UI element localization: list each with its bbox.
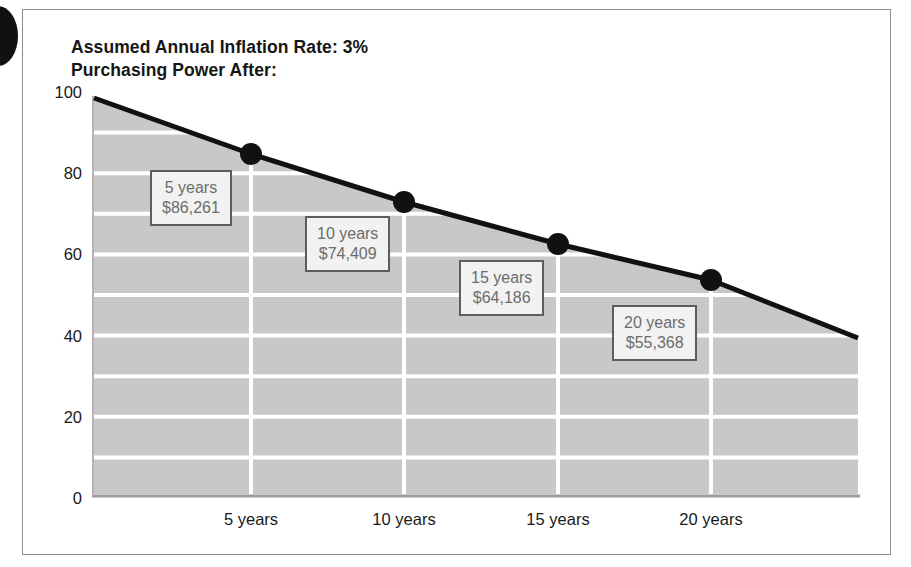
chart-title-block: Assumed Annual Inflation Rate: 3% Purcha… xyxy=(71,36,368,82)
data-point-marker-15-years[interactable] xyxy=(547,233,569,255)
plot-area: 5 years $86,261 10 years $74,409 15 year… xyxy=(90,92,862,498)
x-axis-tick-10-years: 10 years xyxy=(372,510,435,529)
callout-10-years[interactable]: 10 years $74,409 xyxy=(305,216,390,272)
callout-20-years-amount: $55,368 xyxy=(624,333,685,353)
y-axis-tick-40: 40 xyxy=(36,326,82,345)
y-axis-tick-100: 100 xyxy=(36,83,82,102)
data-point-marker-20-years[interactable] xyxy=(700,269,722,291)
y-axis-tick-80: 80 xyxy=(36,164,82,183)
callout-15-years-amount: $64,186 xyxy=(471,288,532,308)
x-axis-tick-5-years: 5 years xyxy=(224,510,278,529)
chart-page: Assumed Annual Inflation Rate: 3% Purcha… xyxy=(0,0,911,567)
bullet-circle-decoration xyxy=(0,6,18,66)
y-axis-tick-60: 60 xyxy=(36,245,82,264)
data-point-marker-10-years[interactable] xyxy=(393,191,415,213)
callout-15-years-years: 15 years xyxy=(471,268,532,288)
y-axis-tick-20: 20 xyxy=(36,407,82,426)
callout-10-years-years: 10 years xyxy=(317,224,378,244)
callout-5-years[interactable]: 5 years $86,261 xyxy=(150,170,232,226)
callout-5-years-amount: $86,261 xyxy=(162,198,220,218)
callout-5-years-years: 5 years xyxy=(162,178,220,198)
callout-10-years-amount: $74,409 xyxy=(317,244,378,264)
callout-15-years[interactable]: 15 years $64,186 xyxy=(459,260,544,316)
y-axis-tick-0: 0 xyxy=(36,489,82,508)
y-axis: 100 80 60 40 20 0 xyxy=(28,92,82,498)
chart-title-line-1: Assumed Annual Inflation Rate: 3% xyxy=(71,36,368,59)
chart-title-line-2: Purchasing Power After: xyxy=(71,59,368,82)
data-point-marker-5-years[interactable] xyxy=(240,143,262,165)
x-axis-tick-15-years: 15 years xyxy=(526,510,589,529)
callout-20-years-years: 20 years xyxy=(624,313,685,333)
x-axis-tick-20-years: 20 years xyxy=(679,510,742,529)
x-axis: 5 years 10 years 15 years 20 years xyxy=(90,510,862,534)
callout-20-years[interactable]: 20 years $55,368 xyxy=(612,305,697,361)
